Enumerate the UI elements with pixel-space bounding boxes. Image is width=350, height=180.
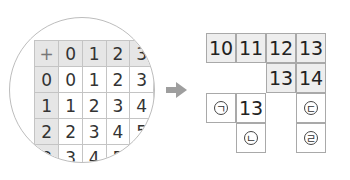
addition-table: + 0 1 2 3 0 0 1 2 3 1 1 2 3 4 2 2 3 4 5 bbox=[34, 40, 154, 163]
table-row: 1 1 2 3 4 bbox=[35, 93, 154, 119]
table-cell: 3 bbox=[82, 119, 106, 145]
blank-cell-a[interactable]: ㄱ bbox=[206, 93, 236, 123]
table-cell: 0 bbox=[59, 67, 83, 93]
col-header: 1 bbox=[82, 41, 106, 67]
table-row: 2 2 3 4 5 bbox=[35, 119, 154, 145]
table-cell: 3 bbox=[106, 93, 130, 119]
table-cell: 5 bbox=[130, 119, 154, 145]
blank-cell-d[interactable]: ㄹ bbox=[296, 123, 326, 153]
col-header: 0 bbox=[59, 41, 83, 67]
blank-cell-c[interactable]: ㄷ bbox=[296, 93, 326, 123]
table-cell: 4 bbox=[82, 145, 106, 164]
col-header: 2 bbox=[106, 41, 130, 67]
table-cell: 2 bbox=[106, 67, 130, 93]
table-row: 0 0 1 2 3 bbox=[35, 67, 154, 93]
table-cell bbox=[130, 145, 154, 164]
blank-label-b: ㄴ bbox=[244, 131, 258, 145]
grid-cell: 11 bbox=[236, 33, 266, 63]
table-cell: 5 bbox=[106, 145, 130, 164]
grid-cell: 12 bbox=[266, 33, 296, 63]
row-header: 1 bbox=[35, 93, 59, 119]
puzzle-grid: 10 11 12 13 13 14 ㄱ 13 ㄷ ㄴ ㄹ bbox=[206, 33, 326, 153]
blank-label-d: ㄹ bbox=[304, 131, 318, 145]
table-cell: 2 bbox=[59, 119, 83, 145]
table-header-row: + 0 1 2 3 bbox=[35, 41, 154, 67]
grid-cell: 13 bbox=[296, 33, 326, 63]
table-cell: 4 bbox=[106, 119, 130, 145]
table-cell: 2 bbox=[82, 93, 106, 119]
corner-plus: + bbox=[35, 41, 59, 67]
grid-cell: 13 bbox=[266, 63, 296, 93]
table-cell: 1 bbox=[59, 93, 83, 119]
blank-label-a: ㄱ bbox=[214, 101, 228, 115]
table-cell: 4 bbox=[130, 93, 154, 119]
col-header: 3 bbox=[130, 41, 154, 67]
grid-cell: 10 bbox=[206, 33, 236, 63]
blank-cell-b[interactable]: ㄴ bbox=[236, 123, 266, 153]
row-header: 0 bbox=[35, 67, 59, 93]
magnifier-circle: + 0 1 2 3 0 0 1 2 3 1 1 2 3 4 2 2 3 4 5 bbox=[9, 17, 155, 163]
grid-cell: 14 bbox=[296, 63, 326, 93]
table-row: 3 3 4 5 bbox=[35, 145, 154, 164]
arrow-right-icon bbox=[166, 82, 188, 98]
row-header: 3 bbox=[35, 145, 59, 164]
table-cell: 3 bbox=[59, 145, 83, 164]
table-cell: 3 bbox=[130, 67, 154, 93]
blank-label-c: ㄷ bbox=[304, 101, 318, 115]
table-cell: 1 bbox=[82, 67, 106, 93]
grid-cell: 13 bbox=[236, 93, 266, 123]
row-header: 2 bbox=[35, 119, 59, 145]
